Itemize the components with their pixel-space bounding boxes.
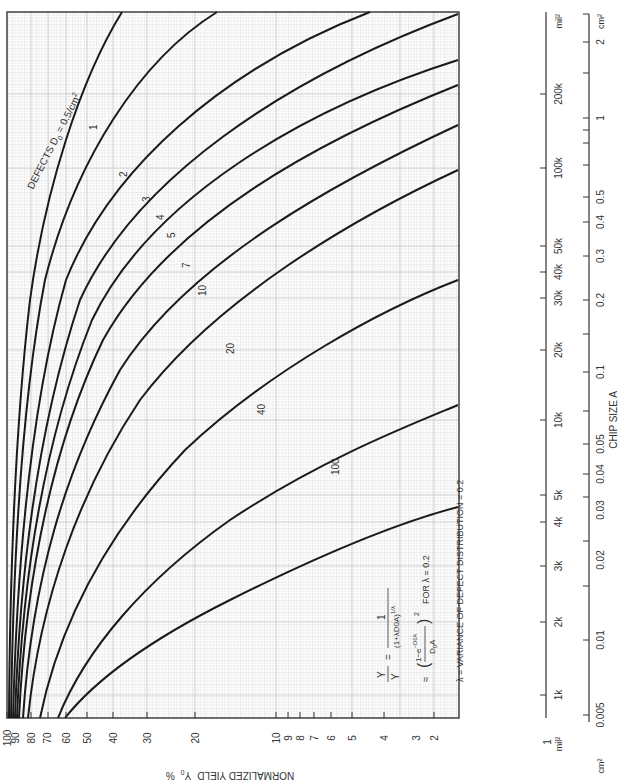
yield-chart: DEFECTS D0 = 0.5/cm2 1 2 3 4 5 7 10 20 4… — [0, 0, 625, 784]
yield-tick-30: 30 — [142, 732, 153, 744]
yield-tick-9: 9 — [283, 735, 294, 741]
curve-label-3: 3 — [141, 196, 152, 202]
cm2-unit-bottom: cm² — [596, 759, 606, 774]
mil2-unit-top: mil² — [554, 14, 564, 29]
curve-label-7: 7 — [181, 262, 192, 268]
mil2-axis: 200k 100k 50k 40k 30k 20k 10k 5k 4k 3k 2… — [540, 12, 564, 751]
mil2-tick-50k: 50k — [553, 237, 564, 254]
formula-approx: ≈ — [420, 676, 431, 682]
mil2-tick-200k: 200k — [553, 82, 564, 105]
mil2-tick-4k: 4k — [553, 516, 564, 528]
cm2-tick-0.3: 0.3 — [595, 249, 606, 263]
svg-text:): ) — [415, 619, 432, 624]
mil2-tick-20k: 20k — [553, 341, 564, 358]
cm2-tick-0.4: 0.4 — [595, 215, 606, 229]
cm2-tick-0.04: 0.04 — [595, 464, 606, 484]
mil2-tick-10k: 10k — [553, 411, 564, 428]
yield-tick-3: 3 — [411, 735, 422, 741]
curve-label-40: 40 — [256, 403, 267, 415]
cm2-tick-0.1: 0.1 — [595, 365, 606, 379]
yield-tick-2: 2 — [429, 735, 440, 741]
formula-for-lambda: FOR λ = 0.2 — [421, 555, 431, 604]
yield-tick-1: 1 — [542, 739, 553, 745]
yield-tick-4: 4 — [379, 735, 390, 741]
svg-text:=: = — [383, 654, 394, 660]
yield-tick-8: 8 — [295, 735, 306, 741]
formula-variance: λ = VARIANCE OF DEFECT DISTRIBUTION = 0.… — [455, 480, 465, 682]
curve-label-10: 10 — [197, 284, 208, 296]
formula-lhs-num: Y — [376, 671, 387, 678]
mil2-tick-3k: 3k — [553, 560, 564, 572]
cm2-tick-1: 1 — [595, 115, 606, 121]
formula-lhs-den: Y — [390, 673, 401, 680]
yield-tick-6: 6 — [326, 735, 337, 741]
cm2-tick-2: 2 — [595, 39, 606, 45]
curve-label-100: 100 — [330, 458, 341, 475]
cm2-tick-0.2: 0.2 — [595, 293, 606, 307]
chip-size-title: CHIP SIZE A — [608, 391, 619, 449]
mil2-tick-100k: 100k — [553, 156, 564, 179]
yield-tick-70: 70 — [42, 732, 53, 744]
yield-axis-title: NORMALIZED YIELDY0% — [166, 769, 295, 781]
mil2-unit-bottom: mil² — [554, 737, 564, 752]
cm2-tick-0.05: 0.05 — [595, 434, 606, 454]
yield-tick-10: 10 — [271, 732, 282, 744]
mil2-tick-40k: 40k — [553, 263, 564, 280]
mil2-tick-1k: 1k — [553, 689, 564, 701]
cm2-unit-top: cm² — [596, 14, 606, 29]
yield-tick-50: 50 — [82, 732, 93, 744]
curve-label-5: 5 — [166, 232, 177, 238]
curve-label-4: 4 — [155, 214, 166, 220]
cm2-tick-0.02: 0.02 — [595, 550, 606, 570]
yield-tick-7: 7 — [309, 735, 320, 741]
yield-tick-90: 90 — [10, 732, 21, 744]
mil2-tick-2k: 2k — [553, 616, 564, 628]
cm2-tick-0.005: 0.005 — [595, 702, 606, 727]
yield-axis: 100 90 80 70 60 50 40 30 20 10 9 8 7 6 5… — [2, 712, 553, 781]
cm2-axis: 2 1 0.5 0.4 0.3 0.2 0.1 0.05 0.04 0.03 0… — [583, 14, 619, 774]
yield-tick-5: 5 — [347, 735, 358, 741]
cm2-tick-0.01: 0.01 — [595, 630, 606, 650]
cm2-tick-0.5: 0.5 — [595, 190, 606, 204]
yield-tick-20: 20 — [190, 732, 201, 744]
yield-tick-40: 40 — [108, 732, 119, 744]
curve-label-1: 1 — [88, 124, 99, 130]
mil2-tick-5k: 5k — [553, 489, 564, 501]
formula-rhs-num: 1 — [376, 614, 387, 620]
mil2-tick-30k: 30k — [553, 289, 564, 306]
svg-text:2: 2 — [413, 612, 420, 616]
curve-label-20: 20 — [225, 342, 236, 354]
yield-tick-80: 80 — [26, 732, 37, 744]
curve-label-2: 2 — [118, 171, 129, 177]
yield-tick-60: 60 — [61, 732, 72, 744]
cm2-tick-0.03: 0.03 — [595, 500, 606, 520]
